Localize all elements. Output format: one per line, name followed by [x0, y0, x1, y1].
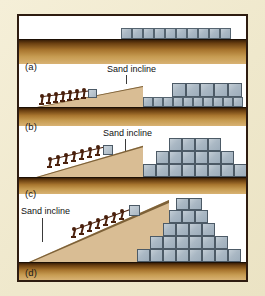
block [202, 236, 215, 249]
block [121, 28, 132, 39]
block [189, 236, 202, 249]
worker-leg [95, 154, 100, 156]
caption-sand-incline-d: Sand incline [21, 206, 70, 216]
block [223, 97, 233, 107]
block [193, 97, 203, 107]
block-on-sled [88, 89, 97, 98]
figure-root: (a) Sand incline [0, 0, 265, 296]
worker-leg [47, 166, 52, 168]
block [172, 83, 186, 97]
block [182, 151, 195, 164]
block [208, 164, 221, 177]
worker-leg [39, 103, 44, 105]
block [143, 97, 153, 107]
block [213, 97, 223, 107]
worker-leg [71, 160, 76, 162]
block [215, 249, 228, 262]
worker-leg [103, 224, 108, 226]
worker-leg [74, 98, 79, 100]
block [200, 83, 214, 97]
worker-leg [111, 221, 116, 223]
worker-leg [79, 158, 84, 160]
block [143, 164, 156, 177]
block [189, 198, 202, 210]
figure-frame: (a) Sand incline [17, 14, 248, 282]
block [154, 28, 165, 39]
block-on-sled [129, 205, 140, 216]
block [156, 151, 169, 164]
block [195, 151, 208, 164]
block [228, 249, 241, 262]
block [163, 97, 173, 107]
worker-leg [60, 100, 65, 102]
worker-leg [79, 233, 84, 235]
block [153, 97, 163, 107]
block [228, 83, 242, 97]
block [208, 151, 221, 164]
caption-sand-incline-c: Sand incline [103, 128, 152, 138]
block [169, 210, 182, 223]
block [132, 28, 143, 39]
panel-c: Sand incline [19, 126, 246, 194]
block-on-sled [103, 145, 113, 155]
block [176, 236, 189, 249]
block [195, 210, 208, 223]
block [203, 97, 213, 107]
ground [19, 178, 246, 194]
worker-leg [81, 97, 86, 99]
block [202, 223, 215, 236]
block [208, 138, 221, 151]
block [169, 138, 182, 151]
ground [19, 263, 246, 280]
block [165, 28, 176, 39]
block [156, 164, 169, 177]
block [234, 164, 246, 177]
block [221, 151, 234, 164]
block [215, 236, 228, 249]
block [214, 83, 228, 97]
ground [19, 108, 246, 126]
block [176, 223, 189, 236]
worker-leg [67, 99, 72, 101]
block [189, 249, 202, 262]
panel-b: Sand incline [19, 64, 246, 126]
block [176, 28, 187, 39]
worker-leg [53, 101, 58, 103]
panel-a [19, 16, 246, 64]
block [202, 249, 215, 262]
block [195, 138, 208, 151]
block [169, 151, 182, 164]
block [209, 28, 220, 39]
block [176, 198, 189, 210]
block [187, 28, 198, 39]
ground [19, 40, 246, 64]
block [220, 28, 231, 39]
block [163, 223, 176, 236]
block [183, 97, 193, 107]
worker-leg [87, 156, 92, 158]
caption-sand-incline-b: Sand incline [107, 64, 156, 74]
worker-leg [71, 236, 76, 238]
block [221, 164, 234, 177]
worker-leg [119, 218, 124, 220]
caption-leader-line-c [125, 139, 126, 151]
block [182, 164, 195, 177]
caption-leader-line-b [126, 75, 127, 84]
block [137, 249, 150, 262]
block [143, 28, 154, 39]
block [198, 28, 209, 39]
panel-label-d: (d) [25, 267, 37, 278]
block [189, 223, 202, 236]
worker-leg [63, 162, 68, 164]
worker-leg [95, 227, 100, 229]
block [176, 249, 189, 262]
block [233, 97, 243, 107]
panel-d: Sand incline [19, 194, 246, 280]
block [163, 236, 176, 249]
worker-leg [46, 102, 51, 104]
block [169, 164, 182, 177]
caption-leader-line-d [42, 218, 43, 242]
block [195, 164, 208, 177]
worker-leg [55, 164, 60, 166]
worker-leg [87, 230, 92, 232]
